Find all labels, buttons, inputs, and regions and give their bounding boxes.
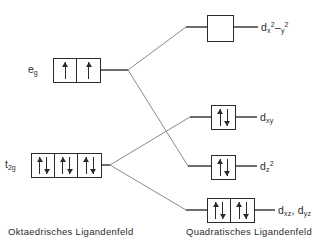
term-label-dx2-y2: dx2–y2: [261, 21, 289, 34]
electron-arrow-up-icon: [212, 202, 219, 219]
orbital-box-dxz-dyz: [207, 198, 255, 223]
orbital-cell: [212, 156, 235, 179]
wire-eg-to-dx2y2: [128, 27, 186, 70]
orbital-cell: [208, 16, 233, 41]
term-label-dz2: dz2: [260, 160, 274, 173]
ligand-field-splitting-diagram: eg t2g: [0, 0, 325, 249]
electron-arrow-up-icon: [59, 157, 66, 174]
wire-t2g-to-dxy: [110, 117, 190, 165]
orbital-box-dxy: [211, 105, 236, 130]
wire-eg-to-dz2: [128, 70, 188, 166]
electron-arrow-down-icon: [66, 157, 73, 174]
electron-arrow-up-icon: [83, 157, 90, 174]
electron-arrow-up-icon: [62, 62, 69, 79]
electron-arrow-down-icon: [43, 157, 50, 174]
level-label-eg: eg: [28, 63, 38, 76]
electron-arrow-up-icon: [217, 159, 224, 176]
caption-square-planar: Quadratisches Ligandenfeld: [186, 226, 312, 237]
electron-arrow-down-icon: [224, 109, 231, 126]
term-label-dxy: dxy: [260, 111, 273, 124]
connector-lines: [0, 0, 325, 249]
orbital-cell: [78, 154, 101, 177]
electron-arrow-up-icon: [217, 109, 224, 126]
electron-arrow-down-icon: [219, 202, 226, 219]
wire-t2g-to-dxzdyz: [110, 165, 186, 210]
orbital-cell: [77, 59, 100, 82]
electron-arrow-up-icon: [36, 157, 43, 174]
orbital-cell: [212, 106, 235, 129]
orbital-box-dz2: [211, 155, 236, 180]
caption-octahedral: Oktaedrisches Ligandenfeld: [8, 226, 134, 237]
orbital-box-dx2-y2: [207, 15, 234, 42]
electron-arrow-up-icon: [85, 62, 92, 79]
orbital-box-eg: [53, 58, 101, 83]
orbital-cell: [231, 199, 254, 222]
electron-arrow-down-icon: [90, 157, 97, 174]
orbital-cell: [55, 154, 78, 177]
level-label-t2g: t2g: [5, 158, 16, 171]
orbital-cell: [32, 154, 55, 177]
electron-arrow-down-icon: [224, 159, 231, 176]
orbital-cell: [208, 199, 231, 222]
orbital-cell: [54, 59, 77, 82]
orbital-box-t2g: [31, 153, 102, 178]
electron-arrow-down-icon: [243, 202, 250, 219]
electron-arrow-up-icon: [236, 202, 243, 219]
term-label-dxz-dyz: dxz, dyz: [278, 204, 311, 217]
